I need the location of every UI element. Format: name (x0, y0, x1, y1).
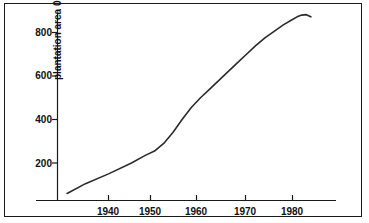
y-tick-label-800: 800 (20, 27, 52, 38)
y-tick-label-400: 400 (20, 114, 52, 125)
chart-figure: 800 600 400 200 1940 1950 1960 1970 1980… (0, 0, 369, 223)
y-axis-title-text: plantation area 000's ha (52, 0, 63, 80)
x-tick-label-1960: 1960 (179, 206, 213, 217)
y-axis-title: plantation area 000's ha▲ (52, 0, 63, 80)
plantation-area-line (67, 15, 311, 194)
y-tick-label-200: 200 (20, 158, 52, 169)
x-tick-label-1950: 1950 (133, 206, 167, 217)
x-tick-label-1970: 1970 (228, 206, 262, 217)
y-tick-label-600: 600 (20, 70, 52, 81)
x-tick-label-1980: 1980 (275, 206, 309, 217)
x-tick-label-1940: 1940 (91, 206, 125, 217)
